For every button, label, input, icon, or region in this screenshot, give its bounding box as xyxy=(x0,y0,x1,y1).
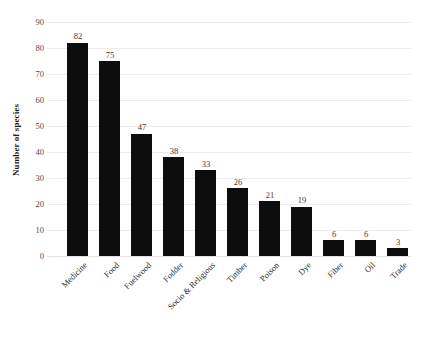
y-axis-title: Number of species xyxy=(11,70,21,210)
y-tick-label: 0 xyxy=(10,252,44,261)
bar xyxy=(99,61,120,256)
bar-value-label: 38 xyxy=(158,147,190,156)
bar-chart: Number of species 0102030405060708090 82… xyxy=(0,0,425,343)
bar-value-label: 75 xyxy=(94,51,126,60)
bar-value-label: 6 xyxy=(350,230,382,239)
x-tick-label: Poison xyxy=(258,260,281,283)
bar-group: 38 xyxy=(158,22,190,256)
bar-value-label: 47 xyxy=(126,123,158,132)
bar-group: 6 xyxy=(350,22,382,256)
bar-group: 33 xyxy=(190,22,222,256)
bar-value-label: 6 xyxy=(318,230,350,239)
y-tick-label: 60 xyxy=(10,96,44,105)
bar-group: 75 xyxy=(94,22,126,256)
x-tick-label: Timber xyxy=(225,260,250,285)
bar-group: 47 xyxy=(126,22,158,256)
bar-value-label: 26 xyxy=(222,178,254,187)
bar-value-label: 19 xyxy=(286,196,318,205)
bar-group: 3 xyxy=(382,22,414,256)
bar-group: 82 xyxy=(62,22,94,256)
y-tick-label: 10 xyxy=(10,226,44,235)
bar xyxy=(355,240,376,256)
bar-group: 19 xyxy=(286,22,318,256)
x-tick-label: Medicine xyxy=(59,260,89,290)
bar-value-label: 82 xyxy=(62,32,94,41)
bar-group: 6 xyxy=(318,22,350,256)
y-tick-label: 30 xyxy=(10,174,44,183)
y-tick-label: 90 xyxy=(10,18,44,27)
x-tick-label: Fiber xyxy=(325,260,345,280)
y-tick-label: 20 xyxy=(10,200,44,209)
y-tick-label: 40 xyxy=(10,148,44,157)
bar-value-label: 33 xyxy=(190,160,222,169)
bar xyxy=(67,43,88,256)
plot-area: 8275473833262119663 xyxy=(47,22,411,256)
x-tick-label: Oil xyxy=(362,260,377,275)
x-tick-label: Fuelwood xyxy=(122,260,153,291)
bar xyxy=(195,170,216,256)
bar-value-label: 21 xyxy=(254,191,286,200)
bar xyxy=(387,248,408,256)
x-tick-label: Food xyxy=(102,260,121,279)
bar-value-label: 3 xyxy=(382,238,414,247)
y-tick-label: 50 xyxy=(10,122,44,131)
x-tick-label: Fodder xyxy=(161,260,185,284)
bar xyxy=(323,240,344,256)
gridline xyxy=(47,256,411,257)
x-tick-label: Dye xyxy=(296,260,313,277)
y-tick-label: 70 xyxy=(10,70,44,79)
bar xyxy=(131,134,152,256)
x-tick-label: Trade xyxy=(388,260,409,281)
y-tick-label: 80 xyxy=(10,44,44,53)
